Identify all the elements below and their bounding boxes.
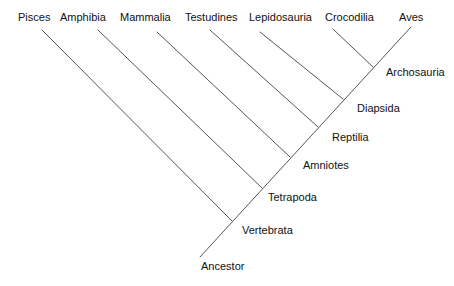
taxon-label-testudines: Testudines	[185, 11, 238, 23]
taxon-label-crocodilia: Crocodilia	[325, 11, 374, 23]
clade-label-reptilia: Reptilia	[332, 131, 369, 143]
clade-label-amniotes: Amniotes	[303, 159, 349, 171]
clade-label-vertebrata: Vertebrata	[242, 224, 293, 236]
branch-line-crocodilia	[333, 29, 373, 67]
taxon-label-lepidosauria: Lepidosauria	[249, 11, 312, 23]
cladogram-canvas	[0, 0, 454, 286]
taxon-label-pisces: Pisces	[18, 11, 50, 23]
trunk-line	[200, 27, 411, 257]
branch-line-testudines	[210, 30, 318, 127]
branch-line-pisces	[42, 30, 232, 221]
branch-line-lepidosauria	[260, 32, 343, 99]
clade-label-archosauria: Archosauria	[386, 66, 445, 78]
clade-label-diapsida: Diapsida	[357, 102, 400, 114]
branch-line-mammalia	[157, 32, 290, 157]
taxon-label-mammalia: Mammalia	[120, 11, 171, 23]
clade-label-ancestor: Ancestor	[201, 260, 244, 272]
clade-label-tetrapoda: Tetrapoda	[268, 191, 317, 203]
taxon-label-amphibia: Amphibia	[60, 11, 106, 23]
taxon-label-aves: Aves	[399, 11, 423, 23]
